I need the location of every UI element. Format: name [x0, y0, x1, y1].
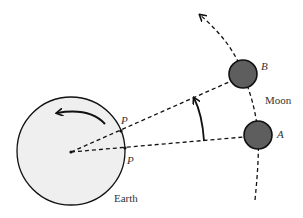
moon-a-label: A	[276, 128, 284, 140]
observer-label-upper: P	[120, 114, 128, 126]
earth-moon-diagram: P P Earth B Moon A	[0, 0, 303, 218]
angle-arrow	[194, 98, 204, 141]
moon-position-b	[229, 60, 257, 88]
observer-label-lower: P	[126, 154, 134, 166]
moon-b-label: B	[261, 60, 268, 72]
moon-orbit-path	[200, 15, 258, 200]
moon-label: Moon	[265, 94, 292, 106]
observer-point-upper	[119, 129, 122, 132]
earth-center-dot	[69, 150, 72, 153]
moon-position-a	[244, 121, 272, 149]
observer-point-lower	[123, 146, 126, 149]
earth-label: Earth	[114, 192, 138, 204]
